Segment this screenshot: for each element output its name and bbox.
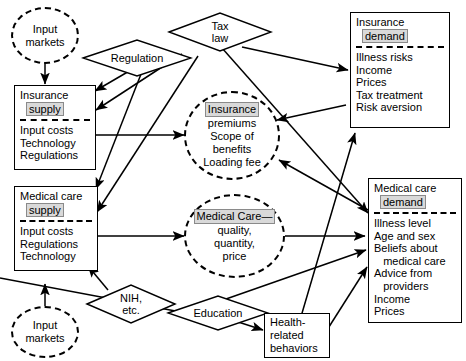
node-education[interactable]: Education bbox=[166, 294, 270, 332]
medical-care-demand-title: Medical care demand bbox=[374, 182, 456, 209]
medical-care-market-highlight: Medical Care— bbox=[194, 209, 276, 224]
edge-medicalcare-demand-to-insurance-market bbox=[279, 160, 368, 210]
node-medical-care-market[interactable]: Medical Care— quality, quantity, price bbox=[184, 194, 285, 278]
insurance-demand-title-highlight: demand bbox=[362, 29, 408, 44]
insurance-supply-title: Insurance supply bbox=[20, 89, 90, 116]
input-markets-top-label: Input markets bbox=[25, 23, 64, 49]
input-markets-bottom-label: Input markets bbox=[25, 319, 64, 345]
regulation-label: Regulation bbox=[111, 52, 164, 64]
node-insurance-supply[interactable]: Insurance supply Input costs Technology … bbox=[14, 85, 96, 170]
insurance-market-label: Insurance premiums Scope of benefits Loa… bbox=[203, 102, 261, 169]
medical-care-demand-divider bbox=[374, 212, 456, 214]
node-medical-care-demand[interactable]: Medical care demand Illness level Age an… bbox=[368, 178, 462, 323]
edge-health-behaviors-to-medicalcare-demand bbox=[327, 267, 367, 330]
node-medical-care-supply[interactable]: Medical care supply Input costs Regulati… bbox=[14, 186, 98, 271]
medical-care-supply-title: Medical care supply bbox=[20, 190, 92, 217]
node-insurance-demand[interactable]: Insurance demand Illness risks Income Pr… bbox=[350, 12, 450, 128]
edge-taxlaw-to-medicalcare-supply bbox=[97, 56, 198, 212]
node-input-markets-bottom[interactable]: Input markets bbox=[11, 306, 79, 358]
nih-label: NIH, etc. bbox=[120, 292, 142, 316]
tax-law-label: Tax law bbox=[211, 20, 228, 44]
node-health-related-behaviors[interactable]: Health- related behaviors bbox=[264, 313, 330, 358]
medical-care-supply-title-highlight: supply bbox=[26, 203, 64, 218]
insurance-supply-items: Input costs Technology Regulations bbox=[20, 124, 90, 162]
medical-care-demand-title-highlight: demand bbox=[380, 195, 426, 210]
medical-care-supply-items: Input costs Regulations Technology bbox=[20, 225, 92, 263]
edge-insurance-demand-to-market bbox=[277, 105, 346, 120]
node-input-markets-top[interactable]: Input markets bbox=[11, 7, 79, 64]
insurance-supply-divider bbox=[20, 119, 90, 121]
medical-care-supply-divider bbox=[20, 220, 92, 222]
edge-health-behaviors-to-insurance-demand bbox=[300, 133, 355, 320]
medical-care-market-label: Medical Care— quality, quantity, price bbox=[194, 209, 276, 263]
health-related-behaviors-label: Health- related behaviors bbox=[270, 316, 318, 355]
node-tax-law[interactable]: Tax law bbox=[167, 11, 273, 53]
insurance-demand-divider bbox=[356, 46, 444, 48]
insurance-market-highlight: Insurance bbox=[205, 102, 259, 117]
node-insurance-market[interactable]: Insurance premiums Scope of benefits Loa… bbox=[184, 91, 280, 180]
node-nih[interactable]: NIH, etc. bbox=[85, 283, 177, 325]
medical-care-demand-items: Illness level Age and sex Beliefs about … bbox=[374, 217, 456, 318]
insurance-demand-items: Illness risks Income Prices Tax treatmen… bbox=[356, 51, 444, 114]
diagram-canvas: Input markets Input markets Regulation T… bbox=[0, 0, 466, 361]
insurance-demand-title: Insurance demand bbox=[356, 16, 444, 43]
education-label: Education bbox=[194, 307, 243, 319]
insurance-supply-title-highlight: supply bbox=[26, 102, 64, 117]
